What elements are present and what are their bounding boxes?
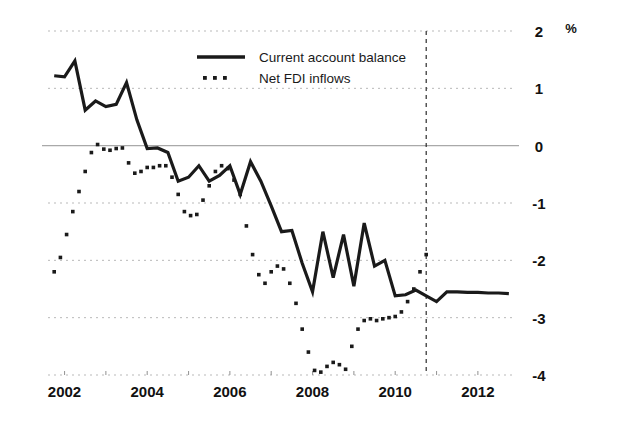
series-dot-net-fdi-inflows [331,361,335,365]
series-dot-net-fdi-inflows [412,287,416,291]
series-dot-net-fdi-inflows [387,316,391,320]
y-axis-unit-label: % [565,21,577,36]
series-dot-net-fdi-inflows [294,302,298,306]
series-dot-net-fdi-inflows [251,253,255,257]
series-dot-net-fdi-inflows [400,310,404,314]
series-dot-net-fdi-inflows [356,327,360,331]
series-dot-net-fdi-inflows [170,175,174,179]
series-dot-net-fdi-inflows [344,367,348,371]
series-dot-net-fdi-inflows [65,233,69,237]
legend-swatch-dotted [223,76,227,80]
series-dot-net-fdi-inflows [325,365,329,369]
series-dot-net-fdi-inflows [220,164,224,168]
series-dot-net-fdi-inflows [133,171,137,175]
series-dot-net-fdi-inflows [300,327,304,331]
y-axis-tick-label: -4 [532,367,546,384]
series-dot-net-fdi-inflows [375,319,379,323]
series-dot-net-fdi-inflows [152,166,156,170]
series-dot-net-fdi-inflows [214,170,218,174]
series-dot-net-fdi-inflows [406,300,410,304]
x-axis-tick-label: 2006 [213,383,246,400]
chart-container: 210-1-2-3-4%200220042006200820102012Curr… [0,0,623,423]
y-axis-tick-label: 2 [535,23,543,40]
series-dot-net-fdi-inflows [90,151,94,155]
series-dot-net-fdi-inflows [207,184,211,188]
series-dot-net-fdi-inflows [77,190,81,194]
y-axis-tick-label: 1 [535,80,543,97]
series-dot-net-fdi-inflows [52,270,56,274]
chart-legend: Current account balanceNet FDI inflows [197,50,406,86]
series-dot-net-fdi-inflows [189,214,193,218]
series-dot-net-fdi-inflows [393,315,397,319]
series-dot-net-fdi-inflows [338,363,342,367]
series-dot-net-fdi-inflows [245,224,249,228]
y-axis-tick-label: 0 [535,138,543,155]
series-dot-net-fdi-inflows [276,264,280,268]
series-dot-net-fdi-inflows [71,210,75,214]
series-dot-net-fdi-inflows [424,253,428,257]
series-dot-net-fdi-inflows [319,370,323,374]
series-dot-net-fdi-inflows [307,350,311,354]
x-axis-tick-label: 2002 [48,383,81,400]
series-dot-net-fdi-inflows [158,164,162,168]
series-dot-net-fdi-inflows [114,147,118,151]
legend-label-net-fdi-inflows: Net FDI inflows [259,71,351,86]
series-dot-net-fdi-inflows [102,147,106,151]
series-dot-net-fdi-inflows [288,281,292,285]
legend-label-current-account-balance: Current account balance [259,50,406,65]
legend-swatch-dotted [203,76,207,80]
series-dot-net-fdi-inflows [176,193,180,197]
x-axis-tick-label: 2008 [296,383,329,400]
series-dot-net-fdi-inflows [263,281,267,285]
x-axis-tick-label: 2010 [379,383,412,400]
series-dot-net-fdi-inflows [362,319,366,323]
series-dot-net-fdi-inflows [381,317,385,321]
series-dot-net-fdi-inflows [164,164,168,168]
series-dot-net-fdi-inflows [83,170,87,174]
series-dot-net-fdi-inflows [201,198,205,202]
series-dot-net-fdi-inflows [369,317,373,321]
series-dot-net-fdi-inflows [183,210,187,214]
series-dot-net-fdi-inflows [195,213,199,217]
series-dot-net-fdi-inflows [418,270,422,274]
series-dot-net-fdi-inflows [139,170,143,174]
series-dot-net-fdi-inflows [145,166,149,170]
series-dot-net-fdi-inflows [238,193,242,197]
y-axis-tick-label: -3 [532,310,545,327]
series-dot-net-fdi-inflows [121,146,125,150]
y-axis-tick-label: -1 [532,195,545,212]
legend-swatch-dotted [213,76,217,80]
series-dot-net-fdi-inflows [226,167,230,171]
series-dot-net-fdi-inflows [257,273,261,277]
series-dot-net-fdi-inflows [313,369,317,373]
series-dot-net-fdi-inflows [108,148,112,152]
x-axis-tick-label: 2012 [461,383,494,400]
y-axis-tick-label: -2 [532,252,545,269]
series-dot-net-fdi-inflows [350,345,354,349]
series-line-current-account-balance [54,61,509,302]
series-dot-net-fdi-inflows [232,178,236,182]
series-dot-net-fdi-inflows [269,270,273,274]
series-dot-net-fdi-inflows [282,267,286,271]
x-axis-tick-label: 2004 [131,383,165,400]
series-dot-net-fdi-inflows [127,161,131,165]
series-dot-net-fdi-inflows [59,256,63,260]
line-chart: 210-1-2-3-4%200220042006200820102012Curr… [0,0,623,423]
series-dot-net-fdi-inflows [96,143,100,147]
